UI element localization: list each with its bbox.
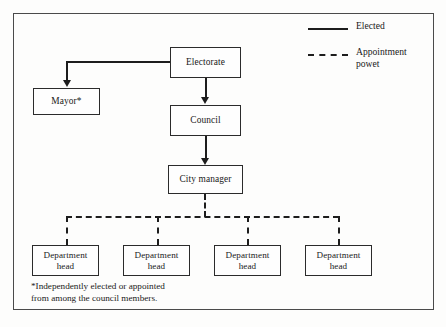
- node-department-head-1[interactable]: Department head: [32, 245, 99, 276]
- node-electorate-label: Electorate: [186, 57, 225, 68]
- edge-city-manager-to-bus: [204, 194, 206, 217]
- diagram-canvas: Elected Appointment powet Electorate May…: [0, 0, 446, 327]
- footnote: *Independently elected or appointed from…: [31, 281, 271, 304]
- node-department-head-4-line2: head: [317, 261, 361, 271]
- node-department-head-3-line2: head: [226, 261, 270, 271]
- node-department-head-1-line1: Department: [44, 250, 88, 260]
- arrowhead-city-manager-icon: [201, 158, 209, 165]
- arrowhead-mayor-icon: [63, 80, 71, 87]
- node-department-head-1-line2: head: [44, 261, 88, 271]
- node-city-manager[interactable]: City manager: [168, 165, 243, 194]
- solid-line-swatch-icon: [308, 28, 348, 30]
- edge-bus-department-head-2: [157, 216, 159, 245]
- edge-electorate-mayor-horizontal: [66, 61, 171, 63]
- edge-electorate-council: [205, 78, 207, 97]
- legend-item-appointment: Appointment powet: [308, 46, 430, 72]
- legend: Elected Appointment powet: [308, 20, 430, 72]
- node-council[interactable]: Council: [170, 105, 241, 136]
- node-department-head-2[interactable]: Department head: [123, 245, 190, 276]
- edge-department-bus: [66, 216, 339, 218]
- node-city-manager-label: City manager: [180, 174, 232, 185]
- node-mayor[interactable]: Mayor*: [33, 88, 100, 115]
- legend-item-elected-label: Elected: [356, 20, 385, 32]
- edge-council-city-manager: [205, 136, 207, 158]
- node-department-head-3[interactable]: Department head: [214, 245, 281, 276]
- arrowhead-council-icon: [201, 97, 209, 104]
- edge-electorate-mayor-vertical: [66, 61, 68, 80]
- node-department-head-3-label: Department head: [226, 250, 270, 270]
- node-department-head-2-line2: head: [135, 261, 179, 271]
- edge-bus-department-head-3: [247, 216, 249, 245]
- node-department-head-3-line1: Department: [226, 250, 270, 260]
- dashed-line-swatch-icon: [308, 54, 348, 56]
- legend-item-appointment-label: Appointment powet: [356, 46, 407, 69]
- legend-item-elected: Elected: [308, 20, 430, 46]
- node-department-head-4[interactable]: Department head: [305, 245, 372, 276]
- node-department-head-4-line1: Department: [317, 250, 361, 260]
- node-council-label: Council: [190, 115, 220, 126]
- node-department-head-4-label: Department head: [317, 250, 361, 270]
- node-department-head-1-label: Department head: [44, 250, 88, 270]
- edge-bus-department-head-4: [338, 216, 340, 245]
- edge-bus-department-head-1: [66, 216, 68, 245]
- node-department-head-2-label: Department head: [135, 250, 179, 270]
- node-electorate[interactable]: Electorate: [170, 47, 241, 78]
- node-mayor-label: Mayor*: [51, 96, 81, 107]
- node-department-head-2-line1: Department: [135, 250, 179, 260]
